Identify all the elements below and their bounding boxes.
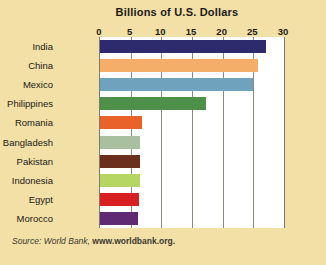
bar-row: Bangladesh bbox=[100, 133, 284, 152]
bar-row: Pakistan bbox=[100, 152, 284, 171]
x-axis: 051015202530 bbox=[99, 26, 283, 37]
bar-mexico bbox=[100, 78, 253, 91]
bar-romania bbox=[100, 116, 142, 129]
bar-row: Egypt bbox=[100, 190, 284, 209]
x-tick-label-30: 30 bbox=[278, 26, 289, 37]
bar-row: Philippines bbox=[100, 94, 284, 113]
category-label-egypt: Egypt bbox=[0, 194, 53, 205]
bar-pakistan bbox=[100, 155, 140, 168]
bar-india bbox=[100, 40, 266, 53]
x-tick-label-25: 25 bbox=[247, 26, 258, 37]
bar-row: Mexico bbox=[100, 75, 284, 94]
category-label-morocco: Morocco bbox=[0, 213, 53, 224]
category-label-philippines: Philippines bbox=[0, 98, 53, 109]
category-label-pakistan: Pakistan bbox=[0, 156, 53, 167]
bar-row: Indonesia bbox=[100, 171, 284, 190]
bar-china bbox=[100, 59, 258, 72]
source-prefix: Source: World Bank, bbox=[12, 236, 92, 246]
source-note: Source: World Bank, www.worldbank.org. bbox=[12, 236, 175, 246]
bar-morocco bbox=[100, 212, 138, 225]
bar-row: Romania bbox=[100, 113, 284, 132]
x-tick-label-0: 0 bbox=[96, 26, 101, 37]
chart-figure: Billions of U.S. Dollars 051015202530 In… bbox=[0, 0, 326, 265]
category-label-india: India bbox=[0, 41, 53, 52]
x-tick-label-10: 10 bbox=[155, 26, 166, 37]
bar-row: China bbox=[100, 56, 284, 75]
category-label-mexico: Mexico bbox=[0, 79, 53, 90]
plot-area: IndiaChinaMexicoPhilippinesRomaniaBangla… bbox=[99, 37, 285, 228]
x-tick-label-5: 5 bbox=[127, 26, 132, 37]
bar-egypt bbox=[100, 193, 139, 206]
category-label-bangladesh: Bangladesh bbox=[0, 137, 53, 148]
category-label-romania: Romania bbox=[0, 117, 53, 128]
category-label-china: China bbox=[0, 60, 53, 71]
source-url-link[interactable]: www.worldbank.org. bbox=[92, 236, 175, 246]
bar-bangladesh bbox=[100, 136, 140, 149]
bar-philippines bbox=[100, 97, 206, 110]
bar-row: India bbox=[100, 37, 284, 56]
bar-row: Morocco bbox=[100, 209, 284, 228]
x-tick-label-15: 15 bbox=[186, 26, 197, 37]
x-tick-label-20: 20 bbox=[216, 26, 227, 37]
category-label-indonesia: Indonesia bbox=[0, 175, 53, 186]
bar-indonesia bbox=[100, 174, 140, 187]
chart-title: Billions of U.S. Dollars bbox=[0, 6, 326, 18]
